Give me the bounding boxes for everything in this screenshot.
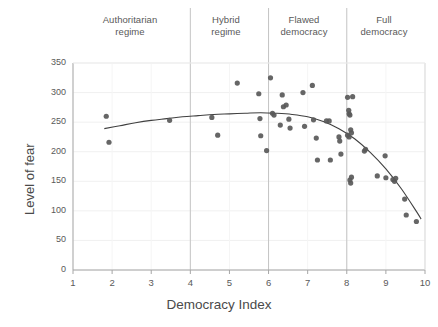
x-tick-label: 7 <box>298 277 318 288</box>
data-point <box>264 148 269 153</box>
data-point <box>104 114 109 119</box>
x-tick-label: 10 <box>415 277 435 288</box>
data-point <box>345 95 350 100</box>
data-point <box>209 115 214 120</box>
data-point <box>271 112 276 117</box>
data-point <box>106 140 111 145</box>
data-point <box>284 102 289 107</box>
data-point <box>314 136 319 141</box>
y-tick-label: 150 <box>36 175 66 185</box>
data-point <box>349 175 354 180</box>
y-tick-label: 50 <box>36 234 66 244</box>
regime-divider-lines <box>190 8 346 270</box>
data-point <box>215 133 220 138</box>
data-point <box>302 124 307 129</box>
data-point <box>167 118 172 123</box>
y-tick-label: 100 <box>36 205 66 215</box>
y-tick-label: 350 <box>36 57 66 67</box>
data-point <box>286 117 291 122</box>
data-point <box>347 112 352 117</box>
data-point <box>348 180 353 185</box>
data-point <box>257 116 262 121</box>
y-tick-label: 250 <box>36 116 66 126</box>
data-point <box>268 75 273 80</box>
x-tick-label: 2 <box>102 277 122 288</box>
y-tick-label: 300 <box>36 87 66 97</box>
data-point <box>235 81 240 86</box>
data-point <box>402 196 407 201</box>
x-tick-label: 3 <box>141 277 161 288</box>
data-point <box>383 153 388 158</box>
data-point <box>258 133 263 138</box>
axis-frame <box>73 63 425 270</box>
trend-line <box>104 113 421 219</box>
data-point <box>375 173 380 178</box>
data-point <box>280 92 285 97</box>
data-point <box>311 117 316 122</box>
data-point <box>315 157 320 162</box>
x-tick-label: 4 <box>180 277 200 288</box>
gridlines <box>73 63 425 270</box>
data-point <box>363 147 368 152</box>
x-tick-label: 8 <box>337 277 357 288</box>
x-tick-label: 9 <box>376 277 396 288</box>
data-point <box>287 125 292 130</box>
data-point <box>327 118 332 123</box>
data-point <box>328 157 333 162</box>
data-point <box>393 176 398 181</box>
x-tick-label: 6 <box>259 277 279 288</box>
data-point <box>349 130 354 135</box>
scatter-chart-figure: Authoritarian regime Hybrid regime Flawe… <box>0 0 438 327</box>
x-tick-label: 5 <box>219 277 239 288</box>
data-point <box>350 94 355 99</box>
data-point <box>338 151 343 156</box>
x-axis-tick-marks <box>73 270 425 274</box>
data-point <box>278 123 283 128</box>
data-point <box>383 175 388 180</box>
data-point <box>337 138 342 143</box>
data-point <box>414 219 419 224</box>
data-point <box>404 212 409 217</box>
y-tick-label: 0 <box>36 264 66 274</box>
y-tick-label: 200 <box>36 146 66 156</box>
x-tick-label: 1 <box>63 277 83 288</box>
data-point <box>310 83 315 88</box>
data-point <box>300 90 305 95</box>
data-point <box>256 91 261 96</box>
